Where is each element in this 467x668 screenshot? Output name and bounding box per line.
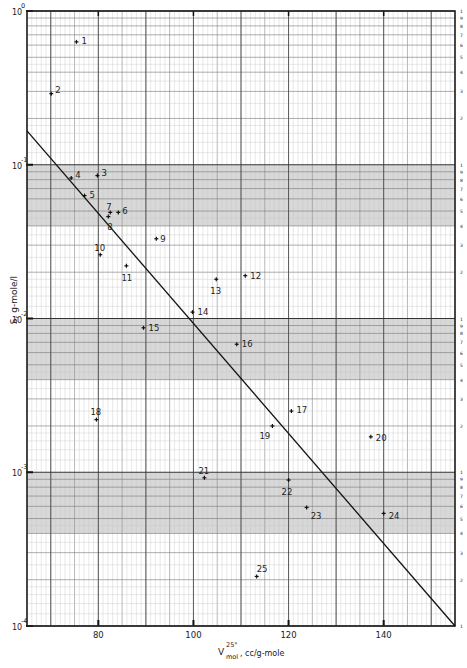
- svg-text:-2: -2: [21, 310, 27, 318]
- x-axis-title-units: , cc/g-mole: [240, 649, 284, 658]
- y-axis-title: S, g-mole/l: [9, 276, 19, 324]
- right-minor-label: 4: [460, 378, 463, 383]
- svg-text:-3: -3: [21, 463, 27, 471]
- point-label: 13: [210, 286, 221, 296]
- svg-text:-4: -4: [21, 617, 27, 625]
- point-label: 22: [282, 487, 293, 497]
- right-minor-label: 5: [460, 363, 463, 368]
- right-minor-label: 4: [460, 70, 463, 75]
- right-minor-label: 9: [460, 324, 463, 329]
- x-axis-title-sup: 25°: [226, 641, 238, 649]
- point-label: 25: [257, 564, 268, 574]
- data-point-17: 17: [289, 405, 307, 415]
- major-gridlines: [26, 11, 455, 626]
- data-point-18: 18: [90, 407, 101, 422]
- y-tick-label: 100: [12, 2, 25, 17]
- point-label: 4: [75, 170, 80, 180]
- x-tick-label: 120: [280, 630, 296, 640]
- data-point-19: 19: [259, 424, 274, 441]
- right-minor-label: 2: [460, 424, 463, 429]
- right-minor-label: 7: [460, 187, 463, 192]
- point-label: 17: [296, 405, 307, 415]
- x-axis-title-main: V: [218, 647, 225, 657]
- point-label: 18: [90, 407, 101, 417]
- point-label: 7: [106, 202, 111, 212]
- x-axis-label: V 25° mol , cc/g-mole: [218, 641, 284, 661]
- right-minor-label: 1: [460, 163, 463, 168]
- point-label: 9: [160, 234, 165, 244]
- x-tick-labels: 80100120140: [93, 630, 392, 640]
- right-minor-label: 5: [460, 517, 463, 522]
- data-point-20: 20: [369, 433, 387, 443]
- right-minor-label: 2: [460, 270, 463, 275]
- right-minor-label: 7: [460, 33, 463, 38]
- right-minor-label: 3: [460, 551, 463, 556]
- point-label: 3: [101, 168, 106, 178]
- chart: 10010-110-210-310-4 19876543219876543219…: [0, 0, 467, 668]
- right-minor-label: 9: [460, 16, 463, 21]
- point-label: 21: [198, 466, 209, 476]
- svg-text:0: 0: [21, 2, 25, 10]
- svg-text:-1: -1: [21, 156, 27, 164]
- point-label: 10: [94, 243, 105, 253]
- right-minor-label: 3: [460, 89, 463, 94]
- point-label: 20: [376, 433, 387, 443]
- point-label: 24: [389, 511, 400, 521]
- right-minor-label: 1: [460, 470, 463, 475]
- y-tick-label: 10-4: [12, 617, 27, 632]
- right-minor-label: 6: [460, 43, 463, 48]
- right-minor-label: 3: [460, 243, 463, 248]
- right-minor-label: 7: [460, 340, 463, 345]
- right-minor-label: 9: [460, 477, 463, 482]
- point-label: 14: [197, 307, 208, 317]
- right-minor-label: 1: [460, 624, 463, 629]
- data-point-1: 1: [74, 36, 86, 46]
- point-label: 12: [250, 271, 261, 281]
- point-label: 5: [90, 190, 95, 200]
- x-axis-title-sub: mol: [226, 653, 238, 661]
- y-tick-label: 10-3: [12, 463, 27, 478]
- point-label: 23: [311, 511, 322, 521]
- point-label: 11: [121, 273, 132, 283]
- right-minor-label: 1: [460, 9, 463, 14]
- right-minor-label: 6: [460, 351, 463, 356]
- right-minor-label: 4: [460, 224, 463, 229]
- right-minor-label: 1: [460, 317, 463, 322]
- right-minor-label: 8: [460, 24, 463, 29]
- right-minor-label: 4: [460, 531, 463, 536]
- right-minor-label: 6: [460, 197, 463, 202]
- point-label: 16: [242, 339, 253, 349]
- x-tick-label: 140: [376, 630, 392, 640]
- data-point-11: 11: [121, 264, 132, 283]
- point-label: 8: [107, 222, 112, 232]
- data-point-9: 9: [154, 234, 165, 244]
- point-label: 1: [81, 36, 86, 46]
- point-label: 15: [149, 323, 160, 333]
- right-minor-label: 3: [460, 397, 463, 402]
- right-minor-label: 5: [460, 55, 463, 60]
- right-minor-label: 5: [460, 209, 463, 214]
- y-tick-label: 10-1: [12, 156, 27, 171]
- right-minor-label: 2: [460, 116, 463, 121]
- right-minor-label: 6: [460, 504, 463, 509]
- right-minor-labels: 1987654321987654321987654321987654321: [460, 9, 463, 629]
- right-minor-label: 8: [460, 178, 463, 183]
- x-tick-label: 100: [185, 630, 201, 640]
- data-point-10: 10: [94, 243, 105, 257]
- right-minor-label: 8: [460, 331, 463, 336]
- x-tick-label: 80: [93, 630, 104, 640]
- data-point-13: 13: [210, 277, 221, 296]
- point-label: 6: [122, 206, 127, 216]
- point-label: 2: [55, 85, 60, 95]
- right-minor-label: 7: [460, 494, 463, 499]
- right-minor-label: 8: [460, 485, 463, 490]
- right-minor-label: 9: [460, 170, 463, 175]
- right-minor-label: 2: [460, 578, 463, 583]
- y-axis-label: S, g-mole/l: [9, 276, 19, 324]
- data-point-25: 25: [255, 564, 268, 578]
- point-label: 19: [259, 431, 270, 441]
